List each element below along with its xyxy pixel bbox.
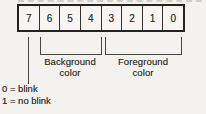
bit-cell-4: 4 xyxy=(81,6,102,30)
background-field-label: Background color xyxy=(28,57,112,78)
bit-number-5: 5 xyxy=(67,13,73,24)
bit-number-3: 3 xyxy=(109,13,115,24)
bit-number-6: 6 xyxy=(47,13,53,24)
background-field-bracket xyxy=(40,37,102,55)
foreground-field-label: Foreground color xyxy=(101,57,185,78)
scan-artifact-line xyxy=(18,0,202,2)
bit-cell-2: 2 xyxy=(122,6,143,30)
bit-number-2: 2 xyxy=(129,13,135,24)
blink-legend-line1: 0 = blink xyxy=(2,83,51,95)
foreground-field-label-line1: Foreground xyxy=(101,57,185,68)
background-field-label-line2: color xyxy=(28,68,112,79)
bit-number-4: 4 xyxy=(88,13,94,24)
bit-cell-3: 3 xyxy=(102,6,123,30)
foreground-field-bracket xyxy=(105,37,182,55)
bit-register-box: 7 6 5 4 3 2 1 0 xyxy=(17,4,185,32)
background-field-label-line1: Background xyxy=(28,57,112,68)
bit-cell-5: 5 xyxy=(60,6,81,30)
bit-cell-6: 6 xyxy=(40,6,61,30)
bit-cell-0: 0 xyxy=(163,6,183,30)
bit-cell-1: 1 xyxy=(143,6,164,30)
attribute-byte-diagram: 7 6 5 4 3 2 1 0 Background color Foregro… xyxy=(0,0,206,114)
bit-number-1: 1 xyxy=(150,13,156,24)
bit-number-0: 0 xyxy=(170,13,176,24)
bit-cell-7: 7 xyxy=(19,6,40,30)
blink-legend: 0 = blink 1 = no blink xyxy=(2,83,51,106)
bit-number-7: 7 xyxy=(26,13,32,24)
foreground-field-label-line2: color xyxy=(101,68,185,79)
blink-legend-line2: 1 = no blink xyxy=(2,95,51,107)
